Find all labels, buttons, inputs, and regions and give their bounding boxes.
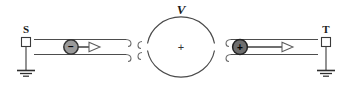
target-ground-symbol — [317, 71, 335, 77]
target-terminal-square — [322, 38, 331, 47]
right-lower-wire-hook — [226, 55, 231, 62]
voltage-label: V — [177, 2, 187, 17]
right-upper-wire-hook — [226, 40, 231, 47]
voltage-center-polarity: + — [178, 41, 184, 53]
voltage-left-lower-hook — [138, 53, 142, 60]
circuit-diagram-svg: S − V — [0, 0, 352, 92]
left-wire-pair — [34, 40, 131, 62]
right-terminal-group: T — [317, 23, 335, 76]
voltage-left-upper-hook — [138, 42, 142, 49]
source-ground-symbol — [17, 71, 35, 77]
physics-diagram-canvas: S − V — [0, 0, 352, 92]
left-upper-wire-hook — [126, 40, 131, 47]
left-velocity-arrowhead — [89, 42, 100, 52]
left-particle-group: − — [64, 40, 100, 54]
left-terminal-group: S — [17, 23, 35, 76]
left-lower-wire-hook — [126, 55, 131, 62]
voltage-circle-upper-arc — [148, 17, 215, 44]
right-velocity-arrowhead — [282, 42, 293, 52]
source-terminal-square — [22, 38, 31, 47]
left-charge-sign: − — [68, 41, 74, 52]
voltage-source-group: V + — [138, 2, 215, 77]
right-particle-group: + — [233, 40, 293, 55]
target-terminal-label: T — [322, 23, 330, 35]
source-terminal-label: S — [23, 23, 29, 35]
voltage-circle-lower-arc — [148, 51, 215, 78]
right-charge-sign: + — [237, 42, 243, 53]
